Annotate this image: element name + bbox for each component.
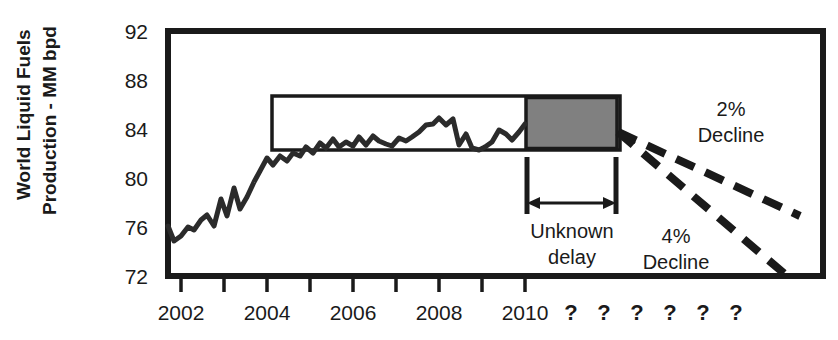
world-liquid-fuels-production-chart: World Liquid Fuels Production - MM bpd 9… bbox=[0, 0, 838, 340]
decline-2pct-label-line1: 2% bbox=[717, 98, 746, 120]
x-unknown-mark-6: ? bbox=[729, 300, 742, 325]
x-tick-label-2008: 2008 bbox=[416, 301, 463, 324]
decline-4pct-label-line2: Decline bbox=[643, 251, 710, 273]
chart-figure: World Liquid Fuels Production - MM bpd 9… bbox=[0, 0, 838, 340]
unknown-delay-label-line1: Unknown bbox=[530, 220, 613, 242]
x-axis-unknown-marks: ? ? ? ? ? ? bbox=[564, 300, 742, 325]
unknown-delay-annotation: Unknown delay bbox=[527, 157, 616, 268]
plot-frame bbox=[168, 31, 823, 276]
decline-4pct-label-line1: 4% bbox=[662, 225, 691, 247]
y-axis-title: World Liquid Fuels Production - MM bpd bbox=[13, 26, 60, 215]
x-unknown-mark-2: ? bbox=[597, 300, 610, 325]
x-tick-label-2002: 2002 bbox=[158, 301, 205, 324]
y-axis-title-line1: World Liquid Fuels bbox=[13, 29, 34, 200]
x-unknown-mark-1: ? bbox=[564, 300, 577, 325]
x-tick-label-2004: 2004 bbox=[244, 301, 291, 324]
y-tick-labels: 92 88 84 80 76 72 bbox=[125, 20, 149, 288]
y-tick-label-76: 76 bbox=[125, 216, 148, 239]
y-tick-label-92: 92 bbox=[125, 20, 148, 43]
unknown-delay-gray-block bbox=[526, 98, 617, 149]
x-tick-label-2006: 2006 bbox=[330, 301, 377, 324]
y-axis-title-line2: Production - MM bpd bbox=[39, 26, 60, 215]
x-unknown-mark-5: ? bbox=[696, 300, 709, 325]
x-tick-labels: 2002 2004 2006 2008 2010 bbox=[158, 301, 549, 324]
x-tick-label-2010: 2010 bbox=[502, 301, 549, 324]
y-tick-label-72: 72 bbox=[125, 265, 148, 288]
y-tick-label-88: 88 bbox=[125, 69, 148, 92]
unknown-delay-label-line2: delay bbox=[548, 246, 596, 268]
x-unknown-mark-4: ? bbox=[663, 300, 676, 325]
x-unknown-mark-3: ? bbox=[630, 300, 643, 325]
x-axis-ticks bbox=[181, 279, 525, 292]
decline-4pct-projection: 4% Decline bbox=[618, 132, 793, 281]
y-tick-label-80: 80 bbox=[125, 167, 148, 190]
y-tick-label-84: 84 bbox=[125, 118, 149, 141]
decline-2pct-label-line2: Decline bbox=[698, 124, 765, 146]
